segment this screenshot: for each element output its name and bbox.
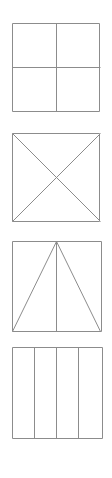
panel-square-apex-triangles [0,230,112,345]
square-apex-triangles-svg [0,230,112,345]
square-quartered-svg [0,0,112,120]
panel-square-diagonals [0,120,112,230]
panel-square-quartered [0,0,112,120]
square-diagonals-svg [0,120,112,230]
square-outline [13,348,103,439]
figure-stack [0,0,112,478]
panel-square-vertical-strips [0,345,112,478]
square-vertical-strips-svg [0,345,112,478]
